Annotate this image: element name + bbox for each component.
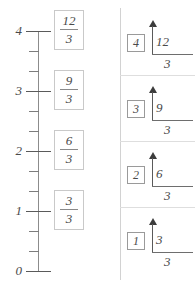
- axis-label-3-wrap: 3: [0, 84, 22, 97]
- arrow-stem: [152, 224, 153, 252]
- arrow-up-icon: [149, 218, 157, 225]
- axis-tick-minor: [29, 71, 39, 72]
- fraction-denominator: 3: [55, 151, 83, 166]
- fraction-numerator: 3: [156, 232, 192, 248]
- fraction-numerator: 3: [55, 193, 83, 208]
- fraction-bar: [152, 252, 193, 253]
- axis-tick-minor: [29, 191, 39, 192]
- fraction-numerator: 6: [55, 133, 83, 148]
- axis-tick-minor: [29, 171, 39, 172]
- arrow-up-icon: [149, 20, 157, 27]
- number-line-fraction-box: 6 3: [54, 130, 84, 170]
- fraction-denominator: 3: [164, 188, 194, 204]
- axis-label-4: 4: [0, 24, 22, 37]
- fraction-denominator: 3: [164, 56, 194, 72]
- diagram-canvas: 4 3 2 1 0 12 3 9 3 6 3 3: [0, 0, 195, 289]
- arrow-stem: [152, 158, 153, 186]
- fraction-denominator: 3: [164, 254, 194, 270]
- axis-tick-major-1: [26, 211, 51, 212]
- axis-tick-minor: [29, 251, 39, 252]
- whole-number-box: 1: [127, 232, 145, 250]
- fraction-bar: [152, 54, 193, 55]
- number-line-panel: 4 3 2 1 0 12 3 9 3 6 3 3: [0, 0, 112, 289]
- fraction-bar: [152, 186, 193, 187]
- axis-tick-minor: [29, 111, 39, 112]
- axis-tick-minor: [29, 131, 39, 132]
- expansion-row: 4 12 3: [120, 10, 195, 76]
- fraction-numerator: 9: [156, 100, 192, 116]
- fraction-numerator: 12: [55, 13, 83, 28]
- fraction-bar: [60, 209, 78, 210]
- arrow-up-icon: [149, 152, 157, 159]
- axis-label-0-wrap: 0: [0, 264, 22, 277]
- axis-label-1-wrap: 1: [0, 204, 22, 217]
- fraction-bar: [152, 120, 193, 121]
- arrow-stem: [152, 92, 153, 120]
- fraction-denominator: 3: [55, 31, 83, 46]
- number-line-fraction-box: 12 3: [54, 10, 84, 50]
- axis-tick-major-4: [26, 31, 51, 32]
- fraction-numerator: 12: [156, 34, 192, 50]
- whole-number-box: 2: [127, 166, 145, 184]
- fraction-numerator: 6: [156, 166, 192, 182]
- axis-tick-major-3: [26, 91, 51, 92]
- axis-label-2: 2: [0, 144, 22, 157]
- axis-label-4-wrap: 4: [0, 24, 22, 37]
- number-line-fraction-box: 9 3: [54, 70, 84, 110]
- axis-tick-major-2: [26, 151, 51, 152]
- expansion-row: 1 3 3: [120, 208, 195, 274]
- axis-label-2-wrap: 2: [0, 144, 22, 157]
- axis-label-0: 0: [0, 264, 22, 277]
- number-line-fraction-box: 3 3: [54, 190, 84, 230]
- axis-tick-minor: [29, 231, 39, 232]
- axis-tick-major-0: [26, 271, 51, 272]
- fraction-denominator: 3: [164, 122, 194, 138]
- fraction-bar: [60, 89, 78, 90]
- expansion-panel: 4 12 3 3 9 3 2 6 3: [120, 0, 195, 289]
- arrow-stem: [152, 26, 153, 54]
- expansion-row: 3 9 3: [120, 76, 195, 142]
- fraction-bar: [60, 149, 78, 150]
- arrow-up-icon: [149, 86, 157, 93]
- axis-tick-minor: [29, 51, 39, 52]
- expansion-row: 2 6 3: [120, 142, 195, 208]
- axis-label-3: 3: [0, 84, 22, 97]
- fraction-numerator: 9: [55, 73, 83, 88]
- fraction-denominator: 3: [55, 211, 83, 226]
- whole-number-box: 3: [127, 100, 145, 118]
- fraction-denominator: 3: [55, 91, 83, 106]
- whole-number-box: 4: [127, 34, 145, 52]
- fraction-bar: [60, 29, 78, 30]
- axis-label-1: 1: [0, 204, 22, 217]
